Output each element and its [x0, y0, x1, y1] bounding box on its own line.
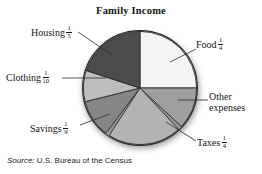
slice-fraction-food: 14: [218, 37, 223, 52]
slice-label-food-text: Food: [196, 39, 217, 50]
slice-group: [83, 31, 196, 144]
pie-slice-food: [140, 31, 197, 88]
slice-label-clothing: Clothing110: [6, 70, 49, 85]
fraction-denominator: 4: [218, 45, 223, 52]
fraction-denominator: 4: [222, 143, 227, 150]
slice-label-housing: Housing15: [31, 25, 72, 40]
slice-fraction-savings: 19: [63, 121, 68, 136]
pie-slices-svg: [82, 30, 199, 148]
slice-label-housing-text: Housing: [31, 27, 65, 38]
slice-label-other-line1: Other: [209, 91, 232, 102]
slice-label-other-expenses: Other expenses: [209, 92, 259, 113]
slice-label-food: Food14: [196, 37, 223, 52]
fraction-denominator: 10: [43, 78, 50, 85]
fraction-denominator: 9: [63, 129, 68, 136]
slice-fraction-clothing: 110: [43, 70, 50, 85]
slice-fraction-taxes: 14: [222, 135, 227, 150]
slice-label-savings-text: Savings: [30, 123, 62, 134]
slice-fraction-housing: 15: [66, 25, 71, 40]
slice-label-taxes-text: Taxes: [197, 137, 220, 148]
pie-chart-graphic: [82, 30, 199, 148]
slice-label-savings: Savings19: [30, 121, 68, 136]
pie-chart-figure: Family Income Housing15 Food14 Clothing1…: [0, 0, 262, 174]
chart-title: Family Income: [0, 5, 262, 16]
slice-label-other-line2: expenses: [209, 102, 245, 113]
source-note-body: U.S. Bureau of the Census: [35, 156, 132, 165]
source-note: Source: U.S. Bureau of the Census: [7, 156, 132, 165]
slice-label-clothing-text: Clothing: [6, 72, 41, 83]
source-note-prefix: Source:: [7, 156, 35, 165]
fraction-denominator: 5: [66, 33, 71, 40]
slice-label-taxes: Taxes14: [197, 135, 227, 150]
